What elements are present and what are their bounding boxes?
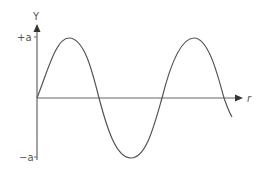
wave-diagram: Y r +a −a	[0, 0, 261, 169]
y-tick-bottom-label: −a	[19, 152, 34, 163]
y-axis-arrow-icon	[34, 24, 41, 32]
y-axis-label: Y	[32, 11, 40, 22]
y-tick-top-label: +a	[17, 32, 32, 43]
x-axis-arrow-icon	[235, 95, 243, 102]
x-axis-label: r	[247, 93, 252, 104]
